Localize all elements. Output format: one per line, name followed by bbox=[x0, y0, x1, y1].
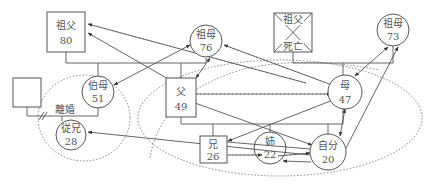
svg-text:伯母: 伯母 bbox=[88, 79, 108, 91]
svg-text:母: 母 bbox=[340, 80, 350, 91]
svg-text:祖母: 祖母 bbox=[196, 28, 216, 40]
svg-text:76: 76 bbox=[200, 42, 213, 53]
family-diagram: 祖父 80 祖母 76 祖父 死亡 祖母 73 伯母 51 離婚 従兄 28 父 bbox=[0, 0, 424, 187]
divorce-label: 離婚 bbox=[55, 103, 75, 115]
svg-text:祖母: 祖母 bbox=[383, 17, 403, 29]
arrow-mother-grandmother-maternal bbox=[355, 47, 388, 76]
node-cousin: 従兄 28 bbox=[56, 120, 86, 150]
node-brother: 兄 26 bbox=[200, 136, 227, 163]
svg-text:80: 80 bbox=[60, 35, 73, 46]
svg-text:祖父: 祖父 bbox=[56, 19, 76, 31]
svg-text:28: 28 bbox=[65, 136, 78, 147]
arrow-mother-self bbox=[340, 109, 345, 136]
arrow-self-to-sister bbox=[283, 161, 311, 162]
svg-text:祖父: 祖父 bbox=[283, 13, 303, 25]
svg-text:兄: 兄 bbox=[208, 139, 218, 150]
node-sister: 姉 22 bbox=[254, 132, 286, 164]
svg-text:73: 73 bbox=[387, 31, 400, 42]
svg-text:51: 51 bbox=[92, 93, 105, 104]
svg-text:47: 47 bbox=[339, 94, 352, 105]
svg-text:父: 父 bbox=[176, 86, 186, 97]
svg-text:49: 49 bbox=[175, 101, 188, 112]
node-aunt-spouse bbox=[13, 78, 41, 107]
marriage-line-parents bbox=[181, 109, 343, 124]
marriage-line-paternal bbox=[66, 52, 206, 63]
arrow-father-to-grandfather bbox=[88, 33, 170, 80]
svg-text:26: 26 bbox=[207, 151, 220, 162]
node-grandmother-paternal: 祖母 76 bbox=[190, 25, 222, 57]
node-self: 自分 20 bbox=[310, 134, 346, 170]
node-grandfather-paternal: 祖父 80 bbox=[47, 12, 85, 52]
svg-text:姉: 姉 bbox=[265, 135, 275, 147]
svg-text:死亡: 死亡 bbox=[283, 40, 303, 52]
svg-text:22: 22 bbox=[264, 149, 277, 160]
node-grandmother-maternal: 祖母 73 bbox=[377, 14, 409, 46]
svg-text:20: 20 bbox=[322, 154, 335, 165]
svg-text:従兄: 従兄 bbox=[61, 122, 81, 134]
node-mother: 母 47 bbox=[328, 75, 362, 109]
svg-text:自分: 自分 bbox=[318, 139, 338, 151]
node-aunt: 伯母 51 bbox=[82, 76, 114, 108]
node-father: 父 49 bbox=[166, 78, 196, 117]
node-grandfather-maternal-deceased: 祖父 死亡 bbox=[274, 13, 312, 52]
